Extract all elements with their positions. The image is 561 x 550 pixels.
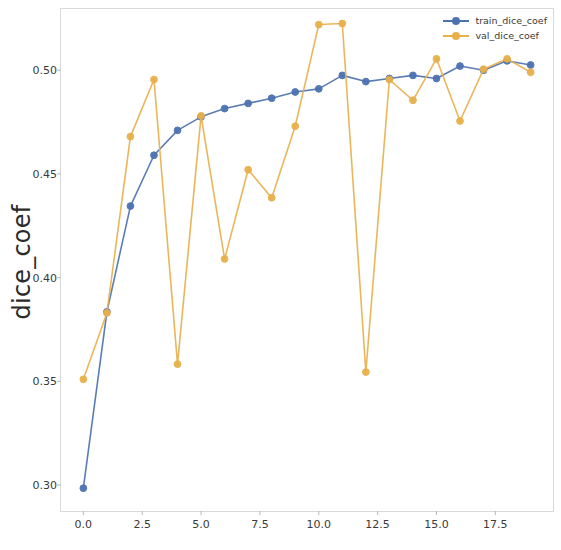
x-tick-label: 2.5	[112, 518, 172, 531]
y-tick-label: 0.30	[3, 479, 57, 492]
x-tick-label: 12.5	[348, 518, 408, 531]
legend-label-train: train_dice_coef	[475, 14, 547, 28]
x-tick-label: 7.5	[230, 518, 290, 531]
x-tick-label: 10.0	[289, 518, 349, 531]
y-axis-label: dice_coef	[8, 52, 36, 472]
legend-swatch-val	[443, 35, 469, 37]
x-tick-label: 0.0	[53, 518, 113, 531]
legend: train_dice_coef val_dice_coef	[437, 10, 553, 47]
chart-canvas	[0, 0, 561, 550]
legend-label-val: val_dice_coef	[475, 29, 539, 43]
x-tick-label: 15.0	[406, 518, 466, 531]
figure: 0.300.350.400.450.50 0.02.55.07.510.012.…	[0, 0, 561, 550]
x-tick-label: 5.0	[171, 518, 231, 531]
x-tick-label: 17.5	[465, 518, 525, 531]
legend-swatch-train	[443, 20, 469, 22]
x-axis-ticks: 0.02.55.07.510.012.515.017.5	[0, 518, 561, 540]
legend-item-val: val_dice_coef	[443, 28, 547, 43]
legend-item-train: train_dice_coef	[443, 13, 547, 28]
